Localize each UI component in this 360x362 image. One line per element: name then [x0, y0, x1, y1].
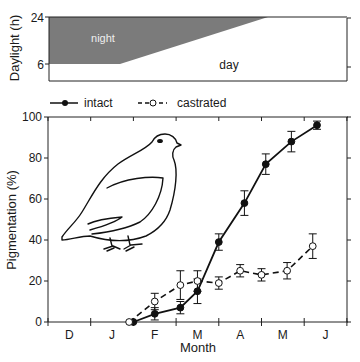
- series-layer: [126, 121, 321, 325]
- data-point: [237, 267, 244, 274]
- ytick-label: 60: [29, 192, 43, 206]
- legend-label-castrated: castrated: [177, 96, 226, 110]
- month-label: J: [323, 328, 329, 342]
- data-point: [126, 319, 133, 326]
- pigmentation-axis-label: Pigmentation (%): [4, 170, 19, 270]
- figure: 24 6 Daylight (h) night day intact castr…: [0, 0, 360, 362]
- ytick-6: 6: [37, 58, 44, 72]
- legend-item-castrated: castrated: [138, 96, 226, 110]
- legend: intact castrated: [50, 96, 226, 110]
- series-intact: [130, 121, 321, 325]
- ytick-label: 100: [22, 110, 42, 124]
- data-point: [215, 239, 222, 246]
- data-point: [194, 278, 201, 285]
- legend-item-intact: intact: [50, 96, 113, 110]
- month-label: D: [65, 328, 74, 342]
- month-label: F: [151, 328, 158, 342]
- daylight-panel: 24 6 Daylight (h) night day: [7, 11, 351, 81]
- daylight-axis-label: Daylight (h): [7, 15, 22, 81]
- ytick-label: 0: [35, 315, 42, 329]
- filled-circle-icon: [62, 100, 68, 106]
- data-point: [177, 304, 184, 311]
- day-label: day: [219, 58, 238, 72]
- ytick-label: 20: [29, 274, 43, 288]
- bird-wing-feather: [88, 217, 122, 230]
- ptarmigan-illustration: [62, 134, 181, 251]
- data-point: [258, 271, 265, 278]
- legend-label-intact: intact: [84, 96, 113, 110]
- month-label: J: [109, 328, 115, 342]
- data-point: [177, 282, 184, 289]
- month-label: M: [278, 328, 288, 342]
- open-circle-icon: [150, 100, 156, 106]
- bird-body-outline: [62, 134, 181, 241]
- data-point: [151, 298, 158, 305]
- data-point: [309, 243, 316, 250]
- data-point: [284, 267, 291, 274]
- month-axis-label: Month: [180, 340, 216, 355]
- night-area: [49, 17, 268, 64]
- ytick-label: 80: [29, 151, 43, 165]
- data-point: [215, 280, 222, 287]
- month-label: A: [236, 328, 244, 342]
- ytick-24: 24: [31, 11, 45, 25]
- data-point: [314, 122, 321, 129]
- night-label: night: [91, 32, 115, 44]
- chart-canvas: 24 6 Daylight (h) night day intact castr…: [0, 0, 360, 362]
- data-point: [241, 200, 248, 207]
- ytick-label: 40: [29, 233, 43, 247]
- data-point: [288, 138, 295, 145]
- bird-eye: [158, 140, 162, 143]
- data-point: [151, 310, 158, 317]
- data-point: [262, 161, 269, 168]
